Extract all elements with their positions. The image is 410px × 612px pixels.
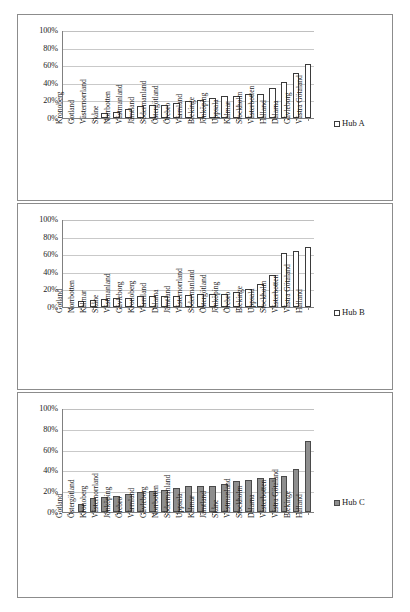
x-axis-tick-label: Halland — [296, 494, 304, 518]
x-axis-tick-label: Västmanland — [224, 478, 232, 518]
x-label-slot: Jönköping — [206, 122, 218, 194]
x-label-slot: Jämtland — [134, 122, 146, 194]
x-label-slot: Dalarna — [278, 122, 290, 194]
y-axis-tick-label: 60% — [43, 62, 58, 70]
x-axis-tick-label: Norrbotten — [104, 91, 112, 124]
x-label-slot: Värmland — [182, 122, 194, 194]
bar[interactable] — [305, 64, 312, 118]
x-label-slot: Gävleborg — [290, 122, 302, 194]
bar[interactable] — [305, 441, 312, 512]
x-label-slot: Södermanland — [146, 122, 158, 194]
chart-panel-hub-a: 0%20%40%60%80%100%KronobergGotlandVäster… — [17, 14, 393, 201]
x-axis-tick-label: Örebro — [164, 103, 172, 124]
x-label-slot: Västmanland — [110, 311, 122, 383]
y-axis-tick-label: 80% — [43, 234, 58, 242]
x-axis-tick-label: Skåne — [92, 295, 100, 313]
x-axis-tick-label: Kronoberg — [128, 281, 136, 313]
x-label-slot: Gotland — [74, 122, 86, 194]
x-axis-tick-label: Östergötland — [152, 86, 160, 125]
chart-panel-hub-c: 0%20%40%60%80%100%GotlandÖstergötlandKro… — [17, 392, 393, 598]
x-label-slot: Västra Götaland — [302, 122, 314, 194]
x-axis-tick-label: Västernorrland — [92, 473, 100, 518]
x-label-slot: Kronoberg — [86, 516, 98, 594]
plot-area-hub-b: 0%20%40%60%80%100%GotlandNorrbottenKalma… — [18, 204, 392, 389]
y-axis-tick-label: 40% — [43, 467, 58, 475]
x-label-slot: Dalarna — [254, 516, 266, 594]
x-axis-tick — [308, 512, 309, 515]
y-axis-tick-label: 60% — [43, 251, 58, 259]
legend-swatch-icon — [334, 500, 340, 506]
figure-three-panel-bar-charts: 0%20%40%60%80%100%KronobergGotlandVäster… — [0, 0, 410, 612]
x-axis-tick-label: Gotland — [68, 100, 76, 124]
x-label-slot: Kalmar — [86, 311, 98, 383]
x-label-slot: Västernorrland — [182, 311, 194, 383]
x-label-slot: Örebro — [230, 311, 242, 383]
x-label-slot: Gotland — [62, 311, 74, 383]
x-axis-tick-label: Södermanland — [164, 475, 172, 518]
legend-swatch-icon — [334, 121, 340, 127]
x-label-slot: Halland — [302, 516, 314, 594]
x-axis-tick-label: Halland — [296, 289, 304, 313]
x-axis-tick-label: Värmland — [140, 283, 148, 313]
x-axis-tick-label: Skåne — [92, 106, 100, 124]
x-axis-tick-label: Östergötland — [68, 480, 76, 519]
legend-swatch-icon — [334, 310, 340, 316]
y-axis-tick-label: 40% — [43, 80, 58, 88]
legend-label: Hub C — [342, 498, 365, 507]
x-label-slot: Östergötland — [206, 311, 218, 383]
x-axis-tick-label: Västerbotten — [248, 86, 256, 124]
x-axis-tick-label: Södermanland — [140, 81, 148, 124]
x-label-slot: Blekinge — [194, 122, 206, 194]
y-axis-tick-label: 100% — [39, 27, 58, 35]
x-label-slot: Stockholm — [242, 516, 254, 594]
x-axis-tick-label: Västerbotten — [260, 480, 268, 518]
plot-area-hub-c: 0%20%40%60%80%100%GotlandÖstergötlandKro… — [18, 393, 392, 597]
x-label-slot: Norrbotten — [158, 516, 170, 594]
x-axis-tick-label: Jönköping — [200, 93, 208, 124]
x-axis-tick-label: Uppsala — [248, 288, 256, 313]
x-label-slot: Västerbotten — [254, 122, 266, 194]
x-label-slot: Jämtland — [206, 516, 218, 594]
x-axis-tick-label: Västmanland — [116, 84, 124, 124]
x-axis-tick-label: Gotland — [56, 494, 64, 518]
x-axis-tick-label: Uppsala — [176, 493, 184, 518]
legend-hub-a: Hub A — [334, 119, 365, 128]
x-label-slot: Halland — [302, 311, 314, 383]
x-label-slot: Blekinge — [290, 516, 302, 594]
x-label-slot: Västerbotten — [266, 516, 278, 594]
x-label-slot: Skåne — [98, 122, 110, 194]
x-axis-labels-hub-a: KronobergGotlandVästernorrlandSkåneNorrb… — [62, 122, 314, 194]
y-axis-tick-label: 40% — [43, 269, 58, 277]
x-axis-tick-label: Stockholm — [260, 281, 268, 313]
x-axis-tick-label: Värmland — [128, 488, 136, 518]
x-label-slot: Västmanland — [230, 516, 242, 594]
x-label-slot: Västernorrland — [98, 516, 110, 594]
x-label-slot: Gotland — [62, 516, 74, 594]
x-label-slot: Södermanland — [194, 311, 206, 383]
x-label-slot: Uppsala — [218, 122, 230, 194]
x-axis-tick-label: Blekinge — [236, 286, 244, 313]
x-label-slot: Uppsala — [182, 516, 194, 594]
x-label-slot: Jönköping — [110, 516, 122, 594]
legend-hub-c: Hub C — [334, 498, 365, 507]
x-label-slot: Östergötland — [74, 516, 86, 594]
y-axis-tick-label: 60% — [43, 447, 58, 455]
x-axis-tick-label: Norrbotten — [68, 280, 76, 313]
x-axis-labels-hub-c: GotlandÖstergötlandKronobergVästernorrla… — [62, 516, 314, 594]
x-label-slot: Skåne — [98, 311, 110, 383]
x-axis-tick-label: Södermanland — [188, 270, 196, 313]
y-axis-tick-label: 80% — [43, 45, 58, 53]
x-axis-tick-label: Blekinge — [188, 97, 196, 124]
x-label-slot: Gävleborg — [122, 311, 134, 383]
x-axis-tick-label: Örebro — [116, 497, 124, 518]
y-axis-tick-label: 100% — [39, 405, 58, 413]
x-axis-tick-label: Gävleborg — [116, 282, 124, 313]
x-label-slot: Stockholm — [242, 122, 254, 194]
x-axis-tick-label: Dalarna — [152, 289, 160, 313]
x-axis-tick-label: Västra Götaland — [272, 469, 280, 518]
x-label-slot: Dalarna — [158, 311, 170, 383]
x-axis-tick-label: Uppsala — [212, 99, 220, 124]
x-axis-tick-label: Gotland — [56, 289, 64, 313]
bar[interactable] — [305, 247, 312, 307]
x-axis-tick-label: Stockholm — [236, 486, 244, 518]
